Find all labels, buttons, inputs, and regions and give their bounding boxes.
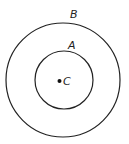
center-point [58, 79, 62, 83]
label-a: A [67, 39, 76, 52]
label-b: B [70, 8, 78, 21]
label-c: C [63, 75, 71, 88]
concentric-circles-diagram: B A C [0, 0, 129, 144]
